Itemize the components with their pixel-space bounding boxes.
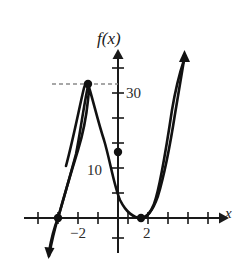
x-tick-label-negative-2: −2 bbox=[70, 225, 86, 242]
x-tick-label-2: 2 bbox=[143, 225, 151, 242]
y-tick-label-10: 10 bbox=[87, 162, 102, 179]
point-double-root bbox=[137, 214, 145, 222]
y-axis-label: f(x) bbox=[97, 29, 121, 49]
y-axis-arrow-icon bbox=[113, 49, 124, 59]
point-y-intercept bbox=[114, 148, 122, 156]
point-local-maximum bbox=[84, 80, 92, 88]
x-axis-label: x bbox=[225, 205, 232, 222]
curve-up-arrow-icon bbox=[179, 50, 190, 62]
y-tick-label-30: 30 bbox=[126, 85, 141, 102]
point-x-intercept bbox=[54, 214, 62, 222]
function-graph bbox=[0, 0, 246, 270]
